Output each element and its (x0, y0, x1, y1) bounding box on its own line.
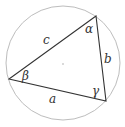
triangle-diagram: c b a α β γ (0, 0, 125, 127)
angle-label-alpha: α (85, 22, 93, 36)
side-label-a: a (49, 92, 56, 106)
side-label-b: b (104, 52, 112, 66)
side-label-c: c (43, 33, 50, 47)
angle-label-gamma: γ (92, 84, 100, 98)
angle-label-beta: β (21, 69, 29, 83)
circumcircle (6, 6, 120, 120)
circumcenter-dot (62, 63, 63, 64)
